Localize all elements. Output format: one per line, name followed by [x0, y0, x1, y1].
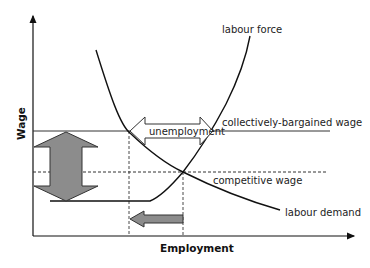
labour-force-label: labour force: [222, 24, 282, 35]
collective-wage-label: collectively-bargained wage: [222, 117, 362, 128]
employment-reduction-arrow: [130, 211, 183, 227]
labour-demand-label: labour demand: [285, 207, 361, 218]
labour-market-diagram: labour force unemployment collectively-b…: [0, 0, 370, 268]
wage-gap-arrow: [34, 132, 98, 201]
unemployment-label: unemployment: [149, 126, 225, 137]
x-axis-label: Employment: [160, 242, 234, 254]
competitive-wage-label: competitive wage: [213, 175, 302, 186]
y-axis-label: Wage: [15, 107, 27, 140]
